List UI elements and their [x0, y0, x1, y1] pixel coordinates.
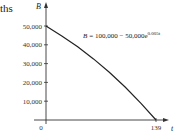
equation-label: B= 100,000 − 50,000e0.005t	[83, 31, 161, 40]
curve-line	[46, 26, 156, 120]
origin-label: 0	[39, 124, 43, 132]
y-tick-label: 50,000	[23, 23, 43, 31]
y-axis-arrow-icon	[44, 2, 48, 8]
chart: B t 50,000 40,000 30,000 20,000 10,000 0…	[0, 0, 176, 133]
y-ticks: 50,000 40,000 30,000 20,000 10,000	[23, 23, 48, 106]
y-tick-label: 40,000	[23, 41, 43, 49]
y-tick-label: 10,000	[23, 98, 43, 106]
x-axis-arrow-icon	[163, 118, 169, 122]
x-axis-label: t	[171, 124, 174, 133]
y-tick-label: 20,000	[23, 79, 43, 87]
svg-text:B= 100,000 − 50,000e0.005t: B= 100,000 − 50,000e0.005t	[83, 31, 161, 40]
y-axis-label: B	[36, 2, 41, 11]
x-tick-label: 139	[151, 124, 162, 132]
y-tick-label: 30,000	[23, 60, 43, 68]
